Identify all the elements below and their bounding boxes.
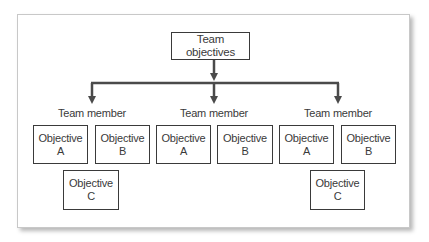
- objective-letter: A: [303, 145, 310, 158]
- member-label-2: Team member: [180, 107, 248, 119]
- objective-letter: B: [365, 145, 372, 158]
- objective-text: Objective: [346, 132, 390, 145]
- member-2-objective-a: Objective A: [156, 125, 211, 164]
- root-label: Team objectives: [172, 33, 249, 59]
- objective-text: Objective: [38, 132, 82, 145]
- objective-letter: A: [57, 145, 64, 158]
- objective-text: Objective: [284, 132, 328, 145]
- member-label-3: Team member: [304, 107, 372, 119]
- objective-letter: C: [334, 190, 342, 203]
- objective-text: Objective: [223, 132, 267, 145]
- root-box-team-objectives: Team objectives: [171, 32, 250, 60]
- objective-text: Objective: [100, 132, 144, 145]
- member-1-objective-a: Objective A: [33, 125, 88, 164]
- objective-letter: C: [87, 190, 95, 203]
- member-1-objective-b: Objective B: [95, 125, 150, 164]
- member-2-objective-b: Objective B: [217, 125, 273, 164]
- member-3-objective-b: Objective B: [341, 125, 396, 164]
- objective-letter: A: [180, 145, 187, 158]
- member-1-objective-c: Objective C: [63, 170, 119, 210]
- objective-text: Objective: [69, 177, 113, 190]
- member-label-1: Team member: [58, 107, 126, 119]
- objective-text: Objective: [315, 177, 359, 190]
- member-3-objective-c: Objective C: [310, 170, 365, 210]
- objective-letter: B: [119, 145, 126, 158]
- objective-text: Objective: [161, 132, 205, 145]
- objective-letter: B: [241, 145, 248, 158]
- member-3-objective-a: Objective A: [279, 125, 334, 164]
